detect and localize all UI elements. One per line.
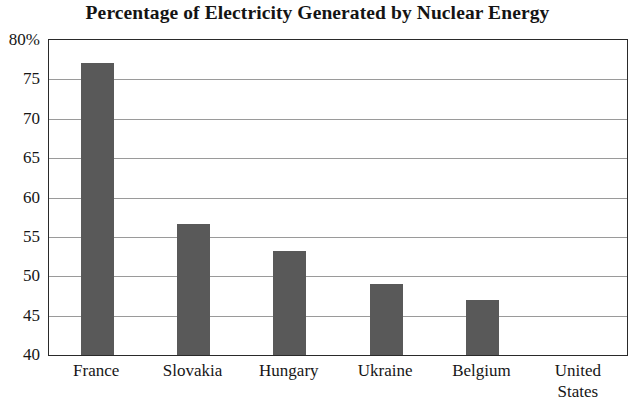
chart-title: Percentage of Electricity Generated by N… <box>0 2 635 24</box>
y-tick-label: 40 <box>23 346 40 363</box>
y-axis: 404550556065707580% <box>0 39 44 356</box>
x-tick-label: Ukraine <box>358 360 413 381</box>
y-tick-label: 50 <box>23 267 40 284</box>
x-tick-label: Slovakia <box>163 360 223 381</box>
x-tick-label: United States <box>555 360 601 403</box>
plot-area <box>48 39 628 356</box>
y-tick-label: 75 <box>23 70 40 87</box>
x-tick-label: Hungary <box>259 360 318 381</box>
y-tick-label: 55 <box>23 227 40 244</box>
y-tick-label: 45 <box>23 306 40 323</box>
y-tick-label: 60 <box>23 188 40 205</box>
y-tick-label: 65 <box>23 149 40 166</box>
bar-chart: Percentage of Electricity Generated by N… <box>0 0 635 419</box>
x-tick-label: France <box>73 360 119 381</box>
x-tick-label: Belgium <box>452 360 511 381</box>
bars-layer <box>49 40 627 355</box>
bar <box>177 224 210 355</box>
bar <box>466 300 499 355</box>
y-tick-label: 80% <box>9 31 40 48</box>
x-axis: FranceSlovakiaHungaryUkraineBelgiumUnite… <box>48 358 628 416</box>
bar <box>370 284 403 355</box>
bar <box>81 63 114 355</box>
bar <box>273 251 306 355</box>
y-tick-label: 70 <box>23 109 40 126</box>
